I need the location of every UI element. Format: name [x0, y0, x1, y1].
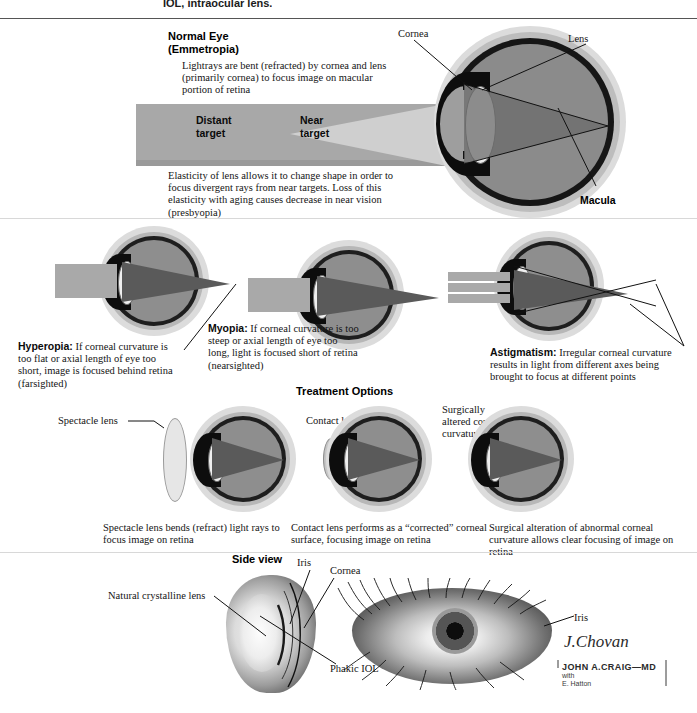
label-iris-side: Iris: [297, 557, 311, 568]
astig-beam-1: [448, 272, 510, 281]
hyperopia-description: Hyperopia: If corneal curvature is too f…: [18, 340, 180, 390]
astigmatism-leaders: [600, 280, 690, 352]
iris-right-leader: [540, 612, 580, 630]
section-divider-2: [0, 552, 697, 553]
myopia-rays: [313, 272, 443, 320]
astig-beam-2: [448, 283, 510, 292]
eye-refraction-plate: { "page": { "top_caption": "IOL, intraoc…: [0, 0, 697, 713]
label-cornea-normal: Cornea: [398, 28, 428, 39]
label-near-target-line1: Near: [300, 114, 323, 126]
contact-caption: Contact lens performs as a “corrected” c…: [291, 522, 487, 546]
myopia-term: Myopia:: [208, 322, 248, 334]
normal-eye-title-line2: (Emmetropia): [168, 43, 239, 56]
spectacle-lens-shape: [163, 418, 187, 502]
astig-beam-3: [448, 294, 510, 303]
treatment-options-heading: Treatment Options: [296, 385, 393, 398]
myopia-incoming-beam: [248, 278, 310, 312]
label-lens-normal: Lens: [568, 33, 588, 44]
section-divider-1: [0, 218, 697, 219]
normal-eye-note-top: Lightrays are bent (refracted) by cornea…: [182, 60, 400, 97]
label-distant-target-line1: Distant: [196, 114, 232, 126]
label-spectacle-lens: Spectacle lens: [58, 415, 118, 426]
signature-rule: [556, 658, 676, 690]
header-divider: [0, 18, 697, 19]
spectacle-caption: Spectacle lens bends (refract) light ray…: [103, 522, 283, 546]
label-cornea-side: Cornea: [330, 565, 360, 576]
normal-eye-title-line1: Normal Eye: [168, 30, 229, 43]
label-natural-lens: Natural crystalline lens: [108, 590, 205, 601]
label-near-target-line2: target: [300, 127, 329, 139]
normal-eye-leaders: [390, 28, 650, 218]
spectacle-leader: [128, 414, 168, 430]
label-macula-normal: Macula: [580, 194, 616, 206]
side-view-heading: Side view: [232, 553, 282, 566]
surgical-caption: Surgical alteration of abnormal corneal …: [489, 522, 685, 559]
astigmatism-description: Astigmatism: Irregular corneal curvature…: [490, 346, 690, 384]
hyperopia-term: Hyperopia:: [18, 340, 73, 352]
surgical-focus-rays: [486, 434, 566, 484]
astigmatism-term: Astigmatism:: [490, 346, 557, 358]
normal-eye-note-bottom: Elasticity of lens allows it to change s…: [168, 170, 404, 219]
contact-focus-rays: [344, 434, 424, 484]
myopia-description: Myopia: If corneal curvature is too stee…: [208, 322, 360, 372]
label-distant-target-line2: target: [196, 127, 225, 139]
spectacle-focus-rays: [208, 434, 288, 484]
artist-signature: J.Chovan: [564, 632, 629, 652]
hyperopia-incoming-beam: [55, 264, 117, 298]
top-caption: IOL, intraocular lens.: [163, 0, 272, 9]
eyelash-group: [330, 576, 570, 692]
